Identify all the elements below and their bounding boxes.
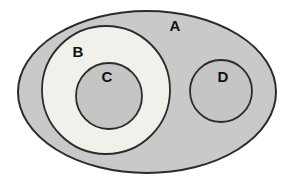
set-b-label: B [73,43,84,60]
euler-diagram-canvas: A B C D [0,0,292,186]
euler-diagram: A B C D [0,0,292,186]
set-a-label: A [170,17,181,34]
set-d-label: D [218,68,229,85]
set-c-label: C [102,68,113,85]
